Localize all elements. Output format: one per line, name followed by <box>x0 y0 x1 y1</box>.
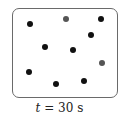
particle-dot <box>99 60 105 66</box>
particle-dot <box>27 21 33 27</box>
particle-dot <box>63 16 69 22</box>
particle-dot <box>26 69 32 75</box>
particle-dot <box>70 47 76 53</box>
particle-dot <box>42 44 48 50</box>
time-caption: t = 30 s <box>0 101 119 115</box>
particle-dot <box>81 78 87 84</box>
particle-dot <box>88 32 94 38</box>
time-value: = 30 s <box>40 101 83 115</box>
particle-dot <box>53 81 59 87</box>
particle-dot <box>98 16 104 22</box>
